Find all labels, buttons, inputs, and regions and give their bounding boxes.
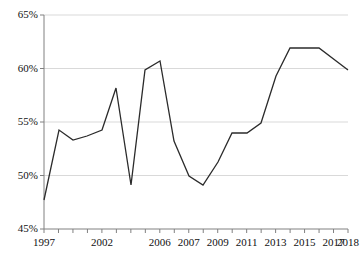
y-axis-tick-label: 60% (18, 63, 38, 74)
x-axis-tick-label: 2018 (332, 237, 364, 248)
y-axis-tick-label: 45% (18, 223, 38, 234)
x-axis-tick-label: 2011 (231, 237, 263, 248)
y-axis-tick-label: 50% (18, 170, 38, 181)
y-axis-tick-label: 65% (18, 9, 38, 20)
x-axis-tick-label: 2006 (144, 237, 176, 248)
x-axis-tick-marks (44, 229, 348, 233)
x-axis-tick-label: 1997 (28, 237, 60, 248)
x-axis-tick-label: 2009 (202, 237, 234, 248)
x-axis-tick-label: 2002 (86, 237, 118, 248)
gridlines (44, 15, 348, 176)
x-axis-tick-label: 2013 (260, 237, 292, 248)
x-axis-tick-label: 2015 (289, 237, 321, 248)
y-axis-tick-marks (40, 15, 44, 229)
data-series-line (44, 48, 348, 200)
x-axis-tick-label: 2007 (173, 237, 205, 248)
y-axis-tick-label: 55% (18, 116, 38, 127)
